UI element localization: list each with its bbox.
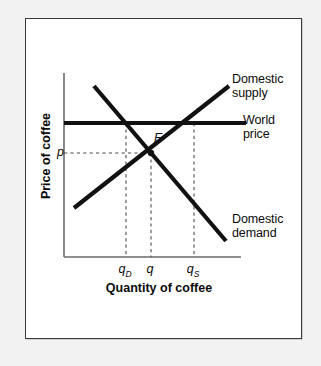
figure-frame: Domestic supply World price Domestic dem… bbox=[25, 18, 302, 339]
x-tick-label-qs: qS bbox=[181, 262, 205, 279]
x-tick-label-q: q bbox=[141, 262, 159, 276]
domestic-supply-curve bbox=[74, 86, 229, 208]
x-tick-qs-sub: S bbox=[194, 269, 200, 279]
x-axis-title: Quantity of coffee bbox=[64, 281, 254, 295]
x-tick-qd-sub: D bbox=[125, 269, 131, 279]
y-tick-label-p: p bbox=[48, 145, 64, 159]
x-tick-label-qd: qD bbox=[113, 262, 137, 279]
equilibrium-label: E bbox=[154, 131, 162, 145]
domestic-demand-curve bbox=[94, 86, 226, 241]
series-label-domestic-demand: Domestic demand bbox=[232, 213, 283, 240]
series-label-world-price: World price bbox=[243, 114, 275, 141]
series-label-domestic-supply: Domestic supply bbox=[232, 73, 283, 100]
x-tick-qs-main: q bbox=[187, 262, 194, 276]
equilibrium-dot bbox=[148, 150, 154, 156]
plot-area: Domestic supply World price Domestic dem… bbox=[26, 19, 301, 338]
